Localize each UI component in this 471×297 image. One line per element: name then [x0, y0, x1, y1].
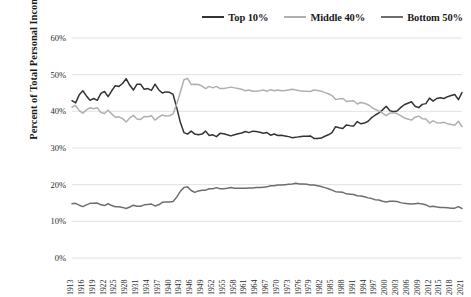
y-tick-label: 10%: [32, 216, 66, 226]
plot-area: [0, 0, 471, 297]
y-tick-label: 0%: [32, 253, 66, 263]
x-tick-label: 1997: [369, 280, 378, 295]
x-tick-label: 1946: [185, 280, 194, 295]
x-tick-label: 1928: [120, 280, 129, 295]
x-tick-label: 2021: [456, 280, 465, 295]
x-tick-label: 2006: [402, 280, 411, 295]
x-tick-label: 1913: [66, 280, 75, 295]
x-tick-label: 1922: [99, 280, 108, 295]
y-tick-label: 40%: [32, 106, 66, 116]
x-tick-label: 1979: [304, 280, 313, 295]
series-line-top-10: [72, 79, 462, 139]
x-tick-label: 1958: [229, 280, 238, 295]
x-tick-label: 1985: [326, 280, 335, 295]
x-tick-label: 2012: [424, 280, 433, 295]
x-tick-label: 1919: [88, 280, 97, 295]
x-tick-label: 1961: [239, 280, 248, 295]
x-tick-label: 2003: [391, 280, 400, 295]
x-tick-label: 1937: [153, 280, 162, 295]
x-tick-label: 2015: [434, 280, 443, 295]
series-line-bottom-50: [72, 183, 462, 208]
x-tick-label: 1988: [337, 280, 346, 295]
x-tick-label: 1991: [348, 280, 357, 295]
x-tick-label: 1994: [359, 280, 368, 295]
x-tick-label: 1931: [131, 280, 140, 295]
income-distribution-chart: Top 10% Middle 40% Bottom 50% Percent of…: [0, 0, 471, 297]
x-tick-label: 1970: [272, 280, 281, 295]
x-tick-label: 1976: [294, 280, 303, 295]
y-tick-label: 20%: [32, 180, 66, 190]
x-tick-label: 1955: [218, 280, 227, 295]
y-tick-label: 60%: [32, 33, 66, 43]
x-tick-label: 1916: [77, 280, 86, 295]
x-tick-label: 2009: [413, 280, 422, 295]
y-tick-label: 30%: [32, 143, 66, 153]
x-tick-label: 1943: [174, 280, 183, 295]
y-tick-label: 50%: [32, 70, 66, 80]
x-tick-label: 2000: [380, 280, 389, 295]
x-tick-label: 1964: [250, 280, 259, 295]
x-tick-label: 1949: [196, 280, 205, 295]
x-tick-label: 1952: [207, 280, 216, 295]
x-tick-label: 1934: [142, 280, 151, 295]
x-tick-label: 1940: [164, 280, 173, 295]
x-tick-label: 1967: [261, 280, 270, 295]
x-tick-label: 1973: [283, 280, 292, 295]
x-tick-label: 1982: [315, 280, 324, 295]
x-tick-label: 2018: [445, 280, 454, 295]
x-tick-label: 1925: [109, 280, 118, 295]
